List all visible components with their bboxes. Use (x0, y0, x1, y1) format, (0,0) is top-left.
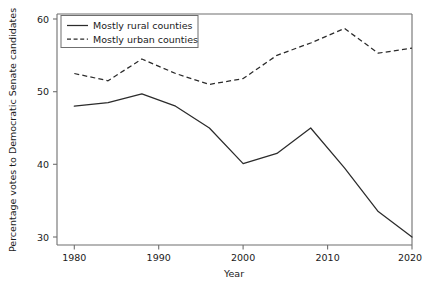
x-tick-label-2010: 2010 (316, 252, 340, 263)
y-tick-label-60: 60 (37, 14, 49, 25)
x-tick-label-1980: 1980 (62, 252, 86, 263)
line-chart: 60 50 40 30 1980 1990 2000 2010 2020 Yea… (0, 0, 431, 286)
x-tick-label-1990: 1990 (147, 252, 171, 263)
legend-label-urban: Mostly urban counties (93, 34, 198, 45)
y-tick-label-40: 40 (37, 159, 49, 170)
x-tick-label-2020: 2020 (398, 252, 422, 263)
x-axis-ticks: 1980 1990 2000 2010 2020 (62, 245, 422, 263)
y-axis-title: Percentage votes to Democratic Senate ca… (7, 8, 18, 252)
y-axis-ticks: 60 50 40 30 (37, 14, 57, 243)
chart-figure: 60 50 40 30 1980 1990 2000 2010 2020 Yea… (0, 0, 431, 286)
series-line-mostly-rural-counties (74, 94, 412, 237)
chart-legend: Mostly rural counties Mostly urban count… (61, 16, 198, 48)
y-tick-label-30: 30 (37, 232, 49, 243)
legend-label-rural: Mostly rural counties (93, 20, 193, 31)
plot-frame (57, 14, 412, 245)
y-tick-label-50: 50 (37, 86, 49, 97)
x-axis-title: Year (223, 268, 244, 279)
x-tick-label-2000: 2000 (231, 252, 255, 263)
